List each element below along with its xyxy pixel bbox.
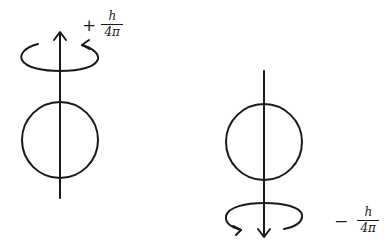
spin-diagram [0,0,387,245]
spin-down-label: − h 4π [334,206,379,235]
spin-up-label: + h 4π [82,10,123,39]
spin-up-particle [21,32,98,198]
spin-down-particle [226,71,302,237]
fraction-numerator: h [362,206,374,219]
fraction-denominator: 4π [104,26,120,39]
label-sign: − [334,211,348,231]
label-sign: + [82,15,96,35]
fraction-denominator: 4π [360,222,376,235]
rotation-arrowhead-icon [82,40,90,49]
fraction: h 4π [101,10,123,39]
rotation-arrowhead-down-icon [233,226,241,235]
fraction-numerator: h [106,10,118,23]
fraction: h 4π [357,206,379,235]
